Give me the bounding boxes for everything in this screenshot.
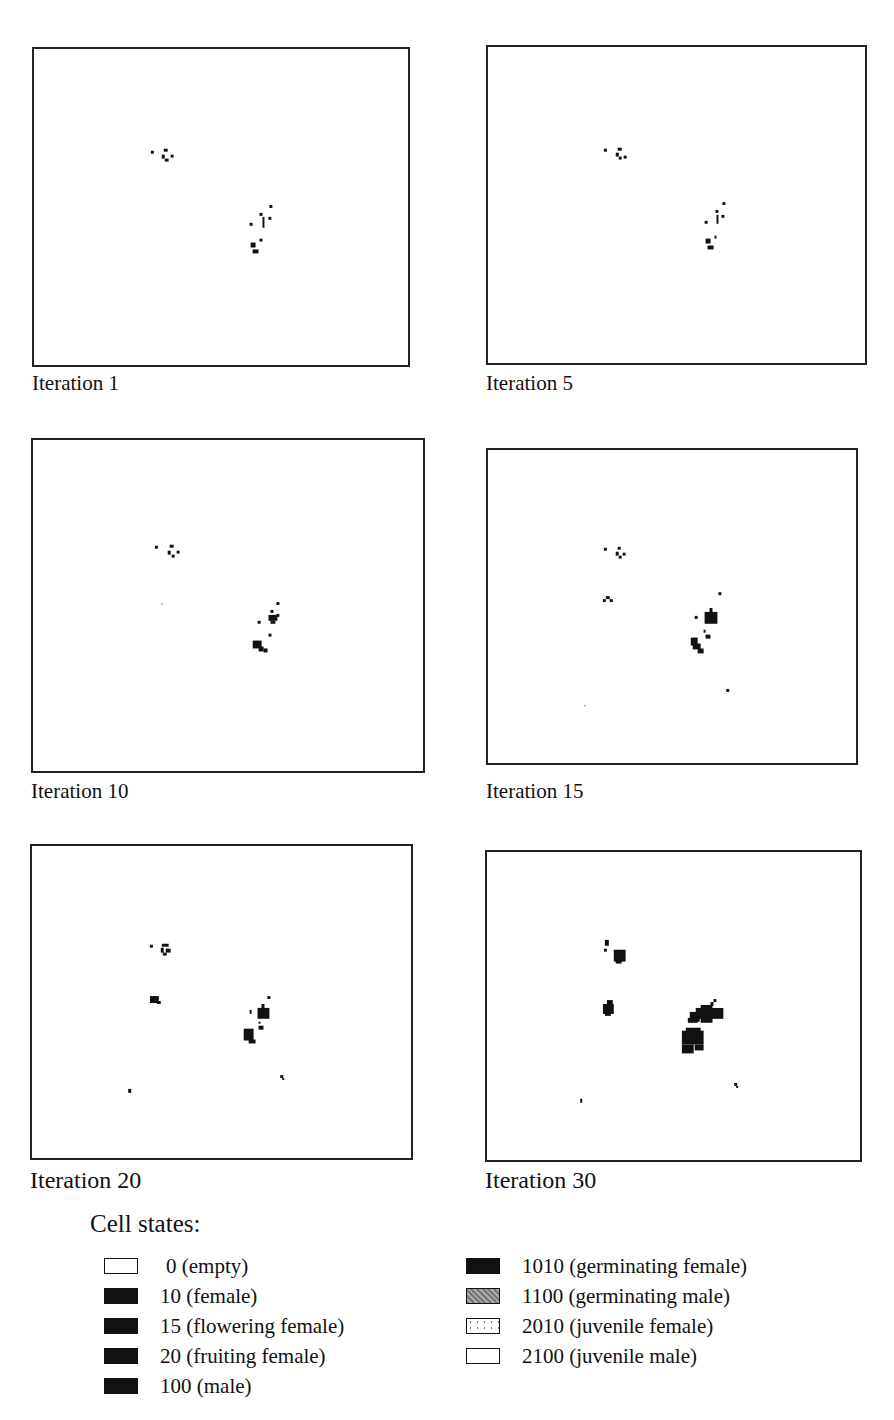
legend-item: 10 (female): [104, 1284, 257, 1308]
legend-label: 1100 (germinating male): [522, 1284, 730, 1309]
legend-item: 100 (male): [104, 1374, 252, 1398]
grid-map: [32, 846, 411, 1158]
empty-swatch-icon: [104, 1258, 138, 1274]
panel-caption: Iteration 10: [31, 781, 128, 802]
legend-item: 15 (flowering female): [104, 1314, 344, 1338]
panel-iteration-1: [32, 47, 410, 367]
panel-caption: Iteration 15: [486, 781, 583, 802]
black-swatch-icon: [104, 1318, 138, 1334]
panel-iteration-15: [486, 448, 858, 765]
legend-label: 10 (female): [160, 1284, 257, 1309]
legend-label: 0 (empty): [166, 1254, 248, 1279]
black-swatch-icon: [104, 1288, 138, 1304]
legend-label: 2100 (juvenile male): [522, 1344, 697, 1369]
grid-map: [34, 49, 408, 365]
legend-label: 2010 (juvenile female): [522, 1314, 713, 1339]
legend-item: 20 (fruiting female): [104, 1344, 326, 1368]
panel-caption: Iteration 1: [32, 373, 119, 394]
black-swatch-icon: [104, 1378, 138, 1394]
panel-iteration-5: [486, 45, 867, 365]
grid-map: [488, 47, 865, 363]
panel-caption: Iteration 5: [486, 373, 573, 394]
panel-iteration-20: [30, 844, 413, 1160]
legend-item: 2010 (juvenile female): [466, 1314, 713, 1338]
black-swatch-icon: [466, 1258, 500, 1274]
legend-item: 2100 (juvenile male): [466, 1344, 697, 1368]
legend-title: Cell states:: [90, 1210, 200, 1238]
black-swatch-icon: [104, 1348, 138, 1364]
panel-caption: Iteration 20: [30, 1168, 141, 1192]
legend-label: 20 (fruiting female): [160, 1344, 326, 1369]
gray-swatch-icon: [466, 1288, 500, 1304]
legend-label: 15 (flowering female): [160, 1314, 344, 1339]
grid-map: [488, 450, 856, 763]
empty-swatch-icon: [466, 1348, 500, 1364]
panel-iteration-30: [485, 850, 862, 1162]
legend-label: 100 (male): [160, 1374, 252, 1399]
legend-label: 1010 (germinating female): [522, 1254, 747, 1279]
grid-map: [487, 852, 860, 1160]
legend-item: 1100 (germinating male): [466, 1284, 730, 1308]
dotted-swatch-icon: [466, 1318, 500, 1334]
panel-iteration-10: [31, 438, 425, 773]
legend-item: 1010 (germinating female): [466, 1254, 747, 1278]
grid-map: [33, 440, 423, 771]
panel-caption: Iteration 30: [485, 1168, 596, 1192]
legend-item: 0 (empty): [104, 1254, 248, 1278]
